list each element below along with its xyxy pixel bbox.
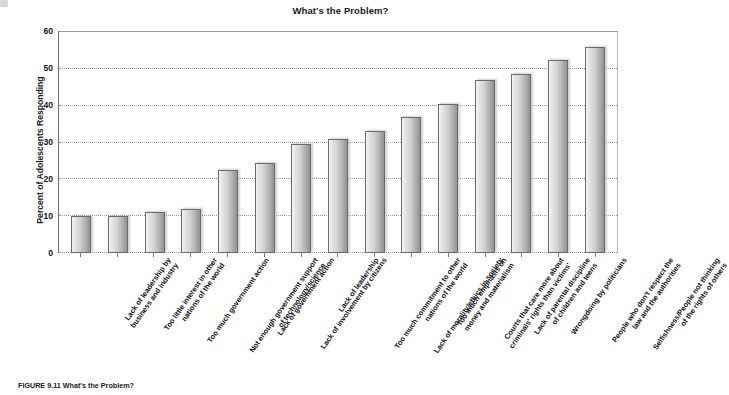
y-tick-label: 20 — [33, 174, 53, 184]
y-tick-label: 60 — [33, 26, 53, 36]
y-axis-tick-labels: 0102030405060 — [31, 31, 53, 253]
figure-caption: FIGURE 9.11 What's the Problem? — [18, 381, 134, 390]
bar — [585, 47, 605, 253]
x-category-label-line: Lack of leadership — [336, 256, 380, 314]
y-tick-label: 10 — [33, 211, 53, 221]
bar — [365, 131, 385, 253]
bar — [181, 209, 201, 253]
bar — [328, 139, 348, 253]
bar — [218, 170, 238, 253]
bar — [71, 216, 91, 253]
x-category-label: Lack of leadership — [336, 256, 380, 314]
caption-text: What's the Problem? — [63, 381, 134, 390]
bar — [475, 80, 495, 253]
bar — [548, 60, 568, 253]
bar — [401, 117, 421, 253]
x-category-label: Too much commitment to othernations of t… — [392, 256, 470, 356]
chart-title: What's the Problem? — [63, 5, 618, 16]
caption-number: FIGURE 9.11 — [18, 381, 61, 390]
x-category-label-line: Lack of leadership by — [121, 256, 173, 325]
bar-series — [59, 32, 617, 253]
bar — [511, 74, 531, 253]
plot-area — [58, 31, 618, 253]
bar — [255, 163, 275, 253]
bar — [145, 212, 165, 253]
bar — [108, 216, 128, 253]
x-axis-category-labels: Lack of leadership bybusiness and indust… — [58, 256, 618, 376]
y-tick-label: 40 — [33, 100, 53, 110]
bar — [438, 104, 458, 253]
scan-artifact — [0, 0, 8, 7]
y-tick-label: 50 — [33, 63, 53, 73]
y-tick-label: 0 — [33, 248, 53, 258]
bar — [291, 144, 311, 253]
y-tick-label: 30 — [33, 137, 53, 147]
